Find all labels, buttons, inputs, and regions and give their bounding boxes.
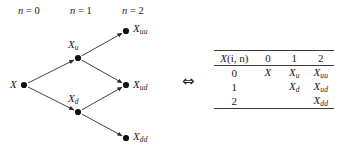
figure-canvas: n = 0 n = 1 n = 2 X Xu Xd Xuu Xud Xdd ⇔: [0, 0, 344, 154]
table-cell-r0c0-base: X: [265, 66, 272, 78]
table-cell-r0c1: Xu: [281, 66, 307, 81]
lattice-edge-down-to-updown: [82, 87, 122, 110]
table-col-header-1: 1: [281, 51, 307, 66]
table-row: 2 Xdd: [214, 94, 334, 109]
table-cell-r2c0: [255, 94, 281, 109]
table-cell-r1c1-base: X: [289, 80, 296, 92]
lattice-edge-root-to-up: [28, 60, 74, 83]
table-cell-r0c2: Xuu: [308, 66, 334, 81]
lattice-node-root: [21, 82, 27, 88]
table-cell-r0c0: X: [255, 66, 281, 81]
table-header-row: X(i, n) 0 1 2: [214, 51, 334, 66]
lattice-table-wrapper: X(i, n) 0 1 2 0 X Xu Xuu: [214, 50, 334, 109]
table-corner-header: X(i, n): [214, 51, 255, 66]
node-label-up-base: X: [68, 38, 75, 50]
lattice-tree-graphic: [0, 0, 180, 154]
table-row: 0 X Xu Xuu: [214, 66, 334, 81]
lattice-node-up: [75, 55, 81, 61]
node-label-up-sub: u: [75, 43, 79, 52]
lattice-edge-down-to-downdown: [82, 114, 122, 136]
table-col-header-2: 2: [308, 51, 334, 66]
table-cell-r1c0: [255, 80, 281, 94]
table-cell-r1c2: Xud: [308, 80, 334, 94]
table-row-header-0: 0: [214, 66, 255, 81]
table-cell-r1c1-sub: d: [296, 85, 300, 94]
table-row-header-1: 1: [214, 80, 255, 94]
node-label-down-sub: d: [75, 97, 79, 106]
node-label-upup-sub: uu: [140, 27, 148, 36]
lattice-edge-up-to-upup: [82, 33, 122, 56]
table-cell-r2c2-sub: dd: [320, 99, 328, 108]
table-cell-r1c1: Xd: [281, 80, 307, 94]
node-label-root: X: [10, 79, 17, 92]
table-col-header-0: 0: [255, 51, 281, 66]
node-label-down: Xd: [68, 93, 79, 106]
table-row-header-2: 2: [214, 94, 255, 109]
lattice-edge-up-to-updown: [82, 60, 122, 83]
lattice-node-updown: [123, 82, 129, 88]
node-label-updown: Xud: [133, 79, 148, 92]
table-cell-r0c2-sub: uu: [320, 71, 328, 80]
lattice-node-downdown: [123, 135, 129, 141]
lattice-node-upup: [123, 28, 129, 34]
table-corner-header-args: (i, n): [227, 52, 248, 64]
table-cell-r2c2: Xdd: [308, 94, 334, 109]
lattice-table: X(i, n) 0 1 2 0 X Xu Xuu: [214, 50, 334, 109]
node-label-root-base: X: [10, 78, 17, 90]
equivalence-symbol: ⇔: [182, 74, 195, 89]
table-cell-r1c2-sub: ud: [320, 85, 328, 94]
node-label-downdown-sub: dd: [140, 135, 148, 144]
node-label-downdown-base: X: [133, 130, 140, 142]
node-label-down-base: X: [68, 92, 75, 104]
node-label-downdown: Xdd: [133, 131, 148, 144]
node-label-upup-base: X: [133, 22, 140, 34]
lattice-table-body: 0 X Xu Xuu 1: [214, 66, 334, 109]
node-label-updown-sub: ud: [140, 83, 148, 92]
table-row: 1 Xd Xud: [214, 80, 334, 94]
table-cell-r0c1-base: X: [289, 66, 296, 78]
lattice-table-head: X(i, n) 0 1 2: [214, 51, 334, 66]
table-corner-header-base: X: [220, 52, 227, 64]
node-label-upup: Xuu: [133, 23, 148, 36]
table-cell-r2c1: [281, 94, 307, 109]
lattice-node-down: [75, 109, 81, 115]
node-label-up: Xu: [68, 39, 79, 52]
table-cell-r0c1-sub: u: [296, 71, 300, 80]
node-label-updown-base: X: [133, 78, 140, 90]
